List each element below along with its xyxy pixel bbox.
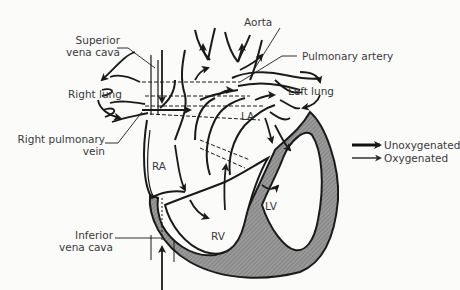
label-right-lung: Right lung (68, 88, 122, 100)
label-ra: RA (152, 160, 166, 172)
label-inferior-vena-cava-line2: vena cava (40, 241, 113, 253)
label-right-pulmonary-vein-line1: Right pulmonary (10, 133, 105, 145)
label-rv: RV (211, 230, 225, 242)
pulmonary-dashed-paths (142, 82, 265, 168)
legend-unoxygenated-label: Unoxygenated (384, 139, 460, 151)
label-left-lung: Left lung (288, 85, 334, 97)
label-superior-vena-cava: Superior vena cava (40, 34, 120, 58)
label-right-pulmonary-vein: Right pulmonary vein (10, 133, 105, 157)
label-inferior-vena-cava: Inferior vena cava (40, 229, 113, 253)
label-lv: LV (265, 200, 277, 212)
label-pulmonary-artery: Pulmonary artery (302, 50, 393, 62)
label-aorta: Aorta (244, 16, 272, 28)
heart-wall (150, 112, 338, 278)
label-la: LA (241, 110, 254, 122)
legend-oxygenated-label: Oxygenated (384, 152, 448, 164)
label-superior-vena-cava-line1: Superior (40, 34, 120, 46)
label-right-pulmonary-vein-line2: vein (10, 145, 105, 157)
label-superior-vena-cava-line2: vena cava (40, 46, 120, 58)
label-inferior-vena-cava-line1: Inferior (40, 229, 113, 241)
